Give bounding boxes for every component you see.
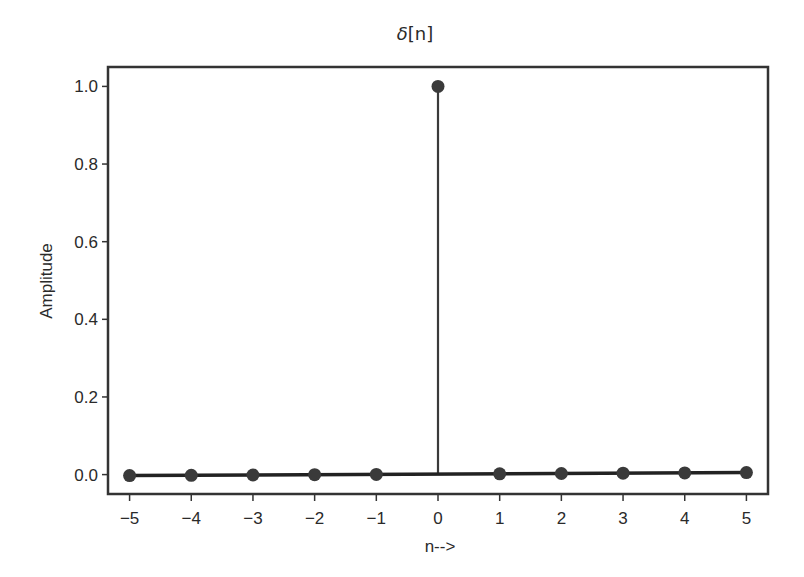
x-tick-label: 2	[557, 509, 566, 528]
title-delta-symbol: δ	[397, 23, 408, 44]
y-axis-label: Amplitude	[37, 243, 56, 319]
x-tick-label: −3	[243, 509, 262, 528]
y-tick-label: 0.6	[74, 233, 98, 252]
stem-marker	[493, 467, 506, 480]
stem-marker	[678, 466, 691, 479]
stem-marker	[185, 469, 198, 482]
stem-marker	[432, 80, 445, 93]
stem-marker	[740, 466, 753, 479]
x-tick-label: −1	[367, 509, 386, 528]
y-tick-label: 0.2	[74, 388, 98, 407]
x-tick-label: 0	[433, 509, 442, 528]
stem-chart: δ[n] 0.00.20.40.60.81.0 −5−4−3−2−1012345…	[0, 0, 804, 577]
stem-marker	[246, 468, 259, 481]
stem-series	[123, 80, 753, 482]
x-tick-label: −2	[305, 509, 324, 528]
stem-marker	[370, 468, 383, 481]
stem-marker	[617, 467, 630, 480]
x-tick-label: 3	[618, 509, 627, 528]
stem-marker	[308, 468, 321, 481]
x-tick-label: 5	[742, 509, 751, 528]
x-tick-label: −4	[182, 509, 201, 528]
chart-title: δ[n]	[397, 23, 433, 44]
x-axis-label: n-->	[425, 537, 456, 556]
y-axis: 0.00.20.40.60.81.0	[74, 77, 108, 484]
y-tick-label: 0.0	[74, 466, 98, 485]
x-axis: −5−4−3−2−1012345	[120, 494, 751, 528]
y-tick-label: 0.8	[74, 155, 98, 174]
y-tick-label: 1.0	[74, 77, 98, 96]
x-tick-label: 1	[495, 509, 504, 528]
title-index: [n]	[408, 23, 433, 44]
stem-marker	[123, 469, 136, 482]
x-tick-label: 4	[680, 509, 689, 528]
y-tick-label: 0.4	[74, 310, 98, 329]
x-tick-label: −5	[120, 509, 139, 528]
stem-marker	[555, 467, 568, 480]
baseline	[130, 473, 747, 476]
